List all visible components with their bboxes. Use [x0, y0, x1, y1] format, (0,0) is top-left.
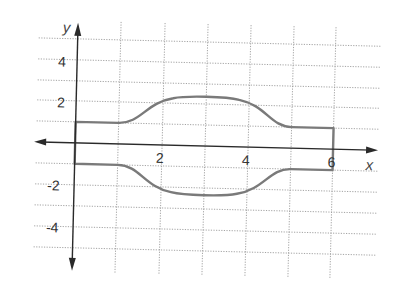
- grid-line-y5: [39, 38, 381, 46]
- x-axis-right-arrow-icon: [366, 146, 378, 153]
- grid-line-ym2: [35, 184, 377, 192]
- x-axis: [34, 138, 378, 153]
- x-tick-label-2: 2: [156, 150, 164, 166]
- y-axis-line: [72, 29, 78, 265]
- vertical-grid: [115, 22, 336, 278]
- y-axis-down-arrow-icon: [69, 258, 76, 271]
- y-axis-up-arrow-icon: [74, 23, 81, 36]
- x-tick-label-6: 6: [328, 154, 336, 170]
- x-axis-line: [40, 142, 372, 150]
- grid-line-x5: [288, 26, 294, 277]
- y-tick-label-neg2: -2: [47, 177, 60, 193]
- grid-line-ym5: [34, 247, 376, 255]
- y-tick-label-2: 2: [57, 94, 65, 110]
- grid-line-y3: [38, 80, 380, 88]
- y-tick-label-neg4: -4: [46, 219, 59, 235]
- y-axis-label: y: [62, 18, 72, 35]
- x-axis-label: x: [364, 156, 373, 173]
- x-tick-label-4: 4: [242, 152, 250, 168]
- grid-line-x1: [115, 22, 121, 273]
- grid-line-x2: [159, 23, 165, 274]
- grid-line-ym3: [35, 205, 377, 213]
- grid-line-y2: [37, 100, 379, 108]
- chart-rotated-group: 2 4 6 4 2 -2 -4 x y: [31, 18, 381, 279]
- grid-line-x4: [245, 25, 251, 276]
- grid-line-x3: [202, 24, 208, 275]
- grid-line-y4: [38, 59, 380, 67]
- y-tick-label-4: 4: [58, 53, 66, 69]
- chart-canvas: 2 4 6 4 2 -2 -4 x y: [0, 0, 400, 293]
- x-axis-left-arrow-icon: [34, 138, 46, 145]
- grid-line-ym4: [34, 226, 376, 234]
